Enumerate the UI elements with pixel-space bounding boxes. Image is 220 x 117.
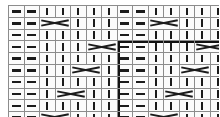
knit-bar-icon [87,30,102,41]
chart-cell-knit [148,100,164,112]
knit-bar-icon [56,30,71,41]
chart-cell-purl [133,29,149,41]
purl-dash-icon [25,18,40,29]
knit-bar-icon [211,112,220,117]
chart-cell-purl [9,41,25,53]
knit-bar-icon [195,100,210,111]
chart-cell-knit [55,76,71,88]
knitting-chart-grid [8,5,219,117]
chart-cell-purl [117,53,133,65]
knit-bar-icon [180,77,195,88]
chart-cell-knit [102,112,118,117]
chart-cell-purl [24,88,40,100]
chart-cell-knit [102,17,118,29]
purl-dash-icon [118,18,133,29]
chart-cell-knit [148,41,164,53]
chart-cell-knit [179,76,195,88]
purl-dash-icon [25,112,40,117]
knit-bar-icon [87,112,102,117]
knit-bar-icon [195,77,210,88]
chart-cell-purl [117,88,133,100]
knit-bar-icon [211,65,220,76]
chart-cell-knit [40,64,56,76]
knit-bar-icon [211,89,220,100]
knit-bar-icon [56,53,71,64]
knit-bar-icon [180,41,195,52]
purl-dash-icon [9,65,24,76]
chart-cell-knit [86,76,102,88]
knit-bar-icon [211,30,220,41]
chart-cell-purl [9,100,25,112]
chart-cell-knit [71,17,87,29]
knit-bar-icon [149,6,164,17]
knit-bar-icon [149,53,164,64]
chart-cell-knit [148,64,164,76]
cable-cross-icon [164,89,194,100]
chart-cell-purl [133,112,149,117]
knit-bar-icon [164,53,179,64]
knit-bar-icon [71,112,86,117]
knit-bar-icon [180,18,195,29]
chart-row [9,41,220,53]
chart-cell-knit [164,53,180,65]
chart-cell-knit [148,76,164,88]
knit-bar-icon [87,53,102,64]
knit-bar-icon [211,100,220,111]
chart-cell-purl [117,100,133,112]
chart-cell-purl [24,6,40,18]
chart-cell-cross [55,88,86,100]
chart-cell-purl [9,88,25,100]
knit-bar-icon [195,53,210,64]
chart-cell-knit [40,88,56,100]
knit-bar-icon [149,77,164,88]
chart-cell-purl [9,6,25,18]
cable-cross-icon [195,41,219,52]
chart-cell-knit [102,100,118,112]
chart-cell-knit [40,53,56,65]
knit-bar-icon [102,30,117,41]
chart-cell-knit [179,41,195,53]
chart-cell-knit [55,64,71,76]
purl-dash-icon [9,30,24,41]
chart-cell-knit [102,29,118,41]
purl-dash-icon [133,6,148,17]
knit-bar-icon [56,41,71,52]
purl-dash-icon [133,89,148,100]
chart-cell-knit [195,88,211,100]
purl-dash-icon [9,100,24,111]
chart-cell-knit [55,53,71,65]
chart-cell-purl [24,100,40,112]
chart-cell-purl [24,112,40,117]
knit-bar-icon [164,77,179,88]
knit-bar-icon [71,6,86,17]
chart-cell-purl [24,53,40,65]
purl-dash-icon [133,41,148,52]
knit-bar-icon [40,77,55,88]
chart-row [9,17,220,29]
cable-cross-icon [71,65,101,76]
chart-cell-knit [195,100,211,112]
chart-cell-purl [117,41,133,53]
chart-cell-knit [210,29,219,41]
knit-bar-icon [195,30,210,41]
chart-cell-purl [117,76,133,88]
chart-row [9,6,220,18]
chart-cell-cross [164,88,195,100]
chart-cell-knit [210,76,219,88]
chart-cell-purl [9,112,25,117]
chart-cell-knit [71,6,87,18]
chart-row [9,76,220,88]
chart-cell-knit [148,29,164,41]
cable-cross-icon [180,65,210,76]
chart-cell-knit [86,88,102,100]
knit-bar-icon [102,53,117,64]
knit-bar-icon [102,65,117,76]
chart-cell-knit [164,100,180,112]
chart-cell-knit [195,53,211,65]
chart-cell-cross [148,112,179,117]
chart-cell-purl [133,76,149,88]
knit-bar-icon [102,77,117,88]
chart-cell-purl [133,64,149,76]
knit-bar-icon [102,18,117,29]
purl-dash-icon [118,65,133,76]
